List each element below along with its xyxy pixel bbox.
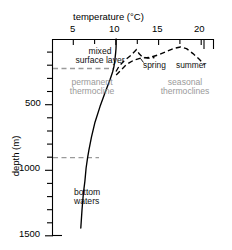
permanent-thermocline-line2: thermocline [55, 87, 129, 96]
temperature-depth-profile-figure: temperature (°C) 5 10 15 20 500 1000 150… [0, 0, 232, 250]
seasonal-thermoclines-line2: thermoclines [147, 87, 223, 96]
mixed-surface-layer-annotation: mixed surface layer [63, 47, 137, 66]
y-tick-label-1500: 1500 [19, 229, 40, 239]
seasonal-thermoclines-annotation: seasonal thermoclines [147, 78, 223, 97]
chart-canvas [0, 0, 232, 250]
permanent-thermocline-annotation: permanent thermocline [55, 78, 129, 97]
summer-series-label: summer [176, 61, 206, 70]
x-axis-title: temperature (°C) [73, 12, 144, 22]
bottom-waters-line2: waters [74, 197, 128, 206]
y-tick-label-500: 500 [25, 98, 41, 108]
x-tick-label-15: 15 [152, 24, 163, 34]
spring-series-label: spring [143, 61, 166, 70]
y-axis-title: depth (m) [10, 136, 21, 177]
mixed-surface-layer-line2: surface layer [63, 56, 137, 65]
y-tick-label-1000: 1000 [19, 163, 40, 173]
x-tick-label-10: 10 [109, 24, 120, 34]
y-axis-major-ticks [45, 105, 53, 236]
y-axis-title-wrap: depth (m) [8, 126, 22, 186]
bottom-waters-annotation: bottom waters [74, 188, 128, 207]
x-tick-label-5: 5 [70, 24, 75, 34]
x-tick-label-20: 20 [194, 24, 205, 34]
